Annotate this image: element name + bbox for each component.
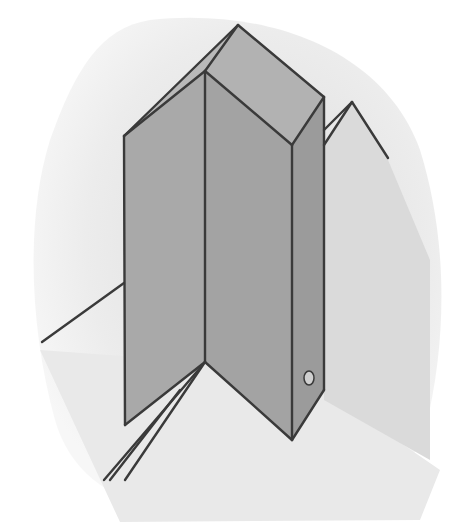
illustration-canvas xyxy=(0,0,455,530)
knob-icon xyxy=(304,371,314,385)
edge-line xyxy=(124,136,125,425)
prism-face-right xyxy=(292,97,324,440)
prism-illustration xyxy=(0,0,455,530)
